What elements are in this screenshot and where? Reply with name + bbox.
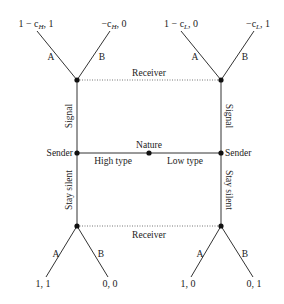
- nature-label: Nature: [136, 140, 162, 150]
- bottom-left-branch-a: [46, 226, 77, 277]
- high-type-label: High type: [94, 156, 132, 166]
- left-stay-silent-label: Stay silent: [64, 170, 74, 210]
- right-stay-silent-label: Stay silent: [224, 170, 234, 210]
- top-left-branch-a: [37, 31, 77, 80]
- left-sender-label: Sender: [47, 148, 74, 158]
- bottom-right-receiver-node: [218, 223, 223, 228]
- right-signal-label: Signal: [224, 104, 234, 129]
- top-right-receiver-node: [218, 77, 223, 82]
- payoff-bottom-left-a: 1, 1: [36, 278, 51, 289]
- top-right-branch-b: [221, 31, 254, 80]
- payoff-top-left-a: 1 − cH, 1: [18, 18, 53, 31]
- payoff-bottom-right-b: 0, 1: [247, 278, 262, 289]
- bottom-left-a-label: A: [53, 249, 60, 259]
- bottom-right-branch-a: [191, 226, 221, 277]
- bottom-right-b-label: B: [242, 249, 248, 259]
- game-tree: Receiver Receiver Nature High type Low t…: [0, 0, 284, 304]
- top-left-a-label: A: [48, 52, 55, 62]
- left-signal-label: Signal: [64, 104, 74, 129]
- payoff-top-left-b: −cH, 0: [101, 18, 126, 31]
- top-right-a-label: A: [192, 52, 199, 62]
- right-sender-node: [218, 150, 223, 155]
- top-receiver-label: Receiver: [132, 68, 167, 78]
- left-sender-node: [74, 150, 79, 155]
- top-left-b-label: B: [99, 52, 105, 62]
- top-left-receiver-node: [74, 77, 79, 82]
- low-type-label: Low type: [167, 156, 203, 166]
- bottom-receiver-label: Receiver: [132, 230, 167, 240]
- payoff-bottom-left-b: 0, 0: [103, 278, 118, 289]
- payoff-top-right-a: 1 − cL, 0: [164, 18, 198, 31]
- bottom-right-branch-b: [221, 226, 253, 277]
- top-right-branch-a: [181, 31, 221, 80]
- payoff-bottom-right-a: 1, 0: [181, 278, 196, 289]
- bottom-left-b-label: B: [98, 249, 104, 259]
- right-sender-label: Sender: [225, 148, 252, 158]
- top-right-b-label: B: [242, 52, 248, 62]
- bottom-left-receiver-node: [74, 223, 79, 228]
- nature-node: [146, 150, 151, 155]
- bottom-right-a-label: A: [197, 249, 204, 259]
- payoff-top-right-b: −cL, 1: [246, 18, 270, 31]
